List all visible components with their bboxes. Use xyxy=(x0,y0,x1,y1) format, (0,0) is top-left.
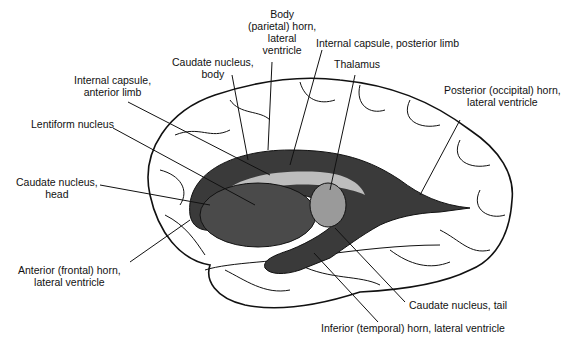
label-line: lateral ventricle xyxy=(444,96,561,108)
label-lentiform: Lentiform nucleus xyxy=(31,118,114,130)
label-line: Caudate nucleus, xyxy=(16,176,98,188)
label-line: lateral xyxy=(248,32,316,44)
label-inferior-horn: Inferior (temporal) horn, lateral ventri… xyxy=(321,322,505,334)
label-line: Internal capsule, xyxy=(74,74,151,86)
label-internal-capsule-posterior: Internal capsule, posterior limb xyxy=(316,37,459,49)
label-line: anterior limb xyxy=(74,86,151,98)
label-line: body xyxy=(172,68,254,80)
label-anterior-horn: Anterior (frontal) horn, lateral ventric… xyxy=(18,264,121,288)
label-line: Anterior (frontal) horn, xyxy=(18,264,121,276)
label-caudate-tail: Caudate nucleus, tail xyxy=(409,299,507,311)
label-body-horn: Body (parietal) horn, lateral ventricle xyxy=(248,8,316,56)
label-line: Body xyxy=(248,8,316,20)
label-line: (parietal) horn, xyxy=(248,20,316,32)
label-internal-capsule-anterior: Internal capsule, anterior limb xyxy=(74,74,151,98)
label-line: Caudate nucleus, xyxy=(172,56,254,68)
lentiform-nucleus xyxy=(200,183,316,247)
label-line: lateral ventricle xyxy=(18,276,121,288)
label-line: head xyxy=(16,188,98,200)
thalamus xyxy=(310,183,346,227)
label-line: ventricle xyxy=(248,44,316,56)
label-thalamus: Thalamus xyxy=(334,58,380,70)
label-line: Posterior (occipital) horn, xyxy=(444,84,561,96)
label-caudate-head: Caudate nucleus, head xyxy=(16,176,98,200)
label-caudate-body: Caudate nucleus, body xyxy=(172,56,254,80)
label-posterior-horn: Posterior (occipital) horn, lateral vent… xyxy=(444,84,561,108)
